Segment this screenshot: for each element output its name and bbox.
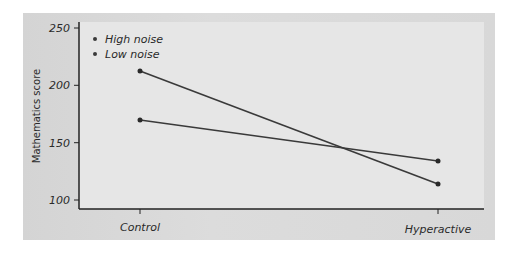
point-high-noise-hyperactive [436, 182, 441, 187]
legend: High noise Low noise [93, 33, 163, 61]
y-axis-title: Mathematics score [31, 69, 42, 164]
line-chart: 250 200 150 100 Control Hyperactive Math… [0, 0, 511, 253]
point-low-noise-hyperactive [436, 159, 441, 164]
y-tick-label-100: 100 [49, 194, 70, 207]
y-ticks: 250 200 150 100 [49, 22, 79, 207]
y-tick-label-200: 200 [49, 79, 70, 92]
series-high-noise [138, 69, 441, 187]
y-tick-label-250: 250 [49, 22, 70, 35]
series-low-noise [138, 118, 441, 164]
x-ticks: Control Hyperactive [120, 209, 471, 236]
y-tick-label-150: 150 [49, 137, 70, 150]
legend-marker-low-noise-icon [93, 52, 97, 56]
legend-marker-high-noise-icon [93, 37, 97, 41]
x-category-hyperactive: Hyperactive [405, 223, 472, 236]
x-category-control: Control [120, 221, 160, 234]
legend-label-high-noise: High noise [105, 33, 163, 46]
point-high-noise-control [138, 69, 143, 74]
legend-label-low-noise: Low noise [105, 48, 160, 61]
point-low-noise-control [138, 118, 143, 123]
